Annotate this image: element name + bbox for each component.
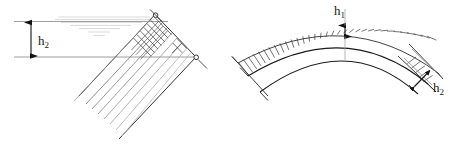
- strip-hatch-separators: [132, 22, 168, 60]
- h1-label: h1: [334, 3, 345, 20]
- right-view-group: h1 h2: [232, 3, 444, 101]
- left-springing-tangents: [232, 57, 268, 101]
- arch-extrados-curve: [248, 48, 428, 84]
- corner-tick-right: [198, 60, 207, 69]
- diagram-canvas: h2: [0, 0, 462, 146]
- arch-hatching-right: [343, 29, 436, 40]
- h2-label-left: h2: [38, 33, 49, 50]
- arch-load-envelope: [238, 36, 438, 73]
- arch-hatching-left: [239, 30, 341, 75]
- strip-corner-node-right: [194, 55, 199, 60]
- inclined-strip-inner-edge: [74, 20, 150, 101]
- arch-intrados-curve: [260, 61, 418, 94]
- h2-label-right: h2: [433, 80, 444, 97]
- figure-root: h2: [0, 0, 462, 146]
- faint-artifact-lines: [55, 17, 154, 35]
- left-view-group: h2: [14, 10, 207, 140]
